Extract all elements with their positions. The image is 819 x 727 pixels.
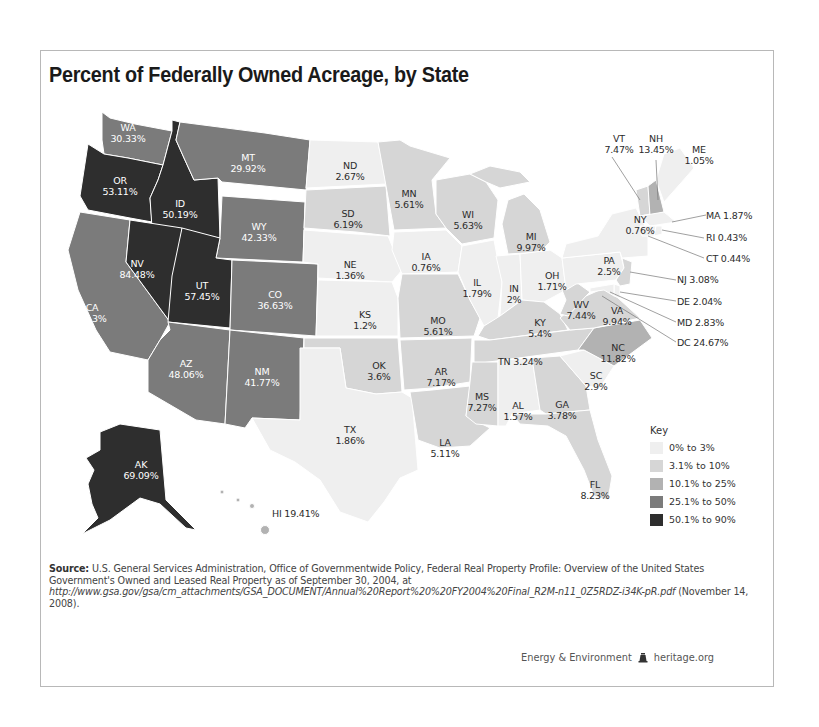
label-nv: NV84.48% (119, 258, 154, 280)
label-ri: RI 0.43% (706, 232, 747, 243)
legend-label: 0% to 3% (669, 442, 715, 453)
label-wa: WA30.33% (110, 122, 145, 144)
label-hi: HI 19.41% (272, 508, 319, 519)
label-oh: OH1.71% (537, 270, 566, 292)
label-dc: DC 24.67% (677, 337, 728, 348)
label-ca: CA45.3% (77, 302, 106, 324)
label-id: ID50.19% (162, 198, 197, 220)
label-wv: WV7.44% (566, 299, 595, 321)
legend-item: 10.1% to 25% (650, 477, 736, 490)
label-ar: AR7.17% (426, 366, 455, 388)
state-hi-1 (220, 490, 224, 494)
label-ms: MS7.27% (467, 391, 496, 413)
label-tn: TN 3.24% (498, 356, 543, 367)
leader-vt (612, 157, 640, 200)
legend-item: 50.1% to 90% (650, 513, 736, 526)
leader-ma (672, 215, 706, 222)
label-ny: NY0.76% (625, 214, 654, 236)
label-sd: SD6.19% (333, 208, 362, 230)
leader-ct (648, 236, 704, 258)
label-ct: CT 0.44% (706, 253, 750, 264)
label-va: VA9.94% (602, 305, 631, 327)
label-md: MD 2.83% (677, 317, 724, 328)
legend-swatch (650, 496, 663, 508)
label-nj: NJ 3.08% (677, 274, 719, 285)
footer-site[interactable]: heritage.org (654, 652, 714, 663)
label-ok: OK3.6% (367, 360, 390, 382)
label-or: OR53.11% (102, 175, 137, 197)
label-ky: KY5.4% (528, 317, 551, 339)
label-tx: TX1.86% (335, 424, 364, 446)
footer: Energy & Environment heritage.org (521, 652, 714, 663)
state-ri (654, 226, 662, 236)
legend-label: 10.1% to 25% (669, 478, 736, 489)
label-la: LA5.11% (430, 437, 459, 459)
legend-item: 3.1% to 10% (650, 459, 730, 472)
us-map (0, 0, 819, 727)
label-nd: ND2.67% (335, 160, 364, 182)
legend-item: 0% to 3% (650, 441, 715, 454)
label-nm: NM41.77% (244, 366, 279, 388)
source-note: Source: U.S. General Services Administra… (49, 563, 749, 609)
legend-title: Key (650, 425, 668, 436)
source-label: Source: (49, 563, 89, 574)
legend-item: 25.1% to 50% (650, 495, 736, 508)
label-mi: MI9.97% (516, 231, 545, 253)
label-ga: GA3.78% (547, 399, 576, 421)
label-co: CO36.63% (257, 289, 292, 311)
source-url[interactable]: http://www.gsa.gov/gsa/cm_attachments/GS… (49, 586, 675, 597)
label-ia: IA0.76% (411, 251, 440, 273)
state-hi-4 (261, 526, 270, 535)
source-text: U.S. General Services Administration, Of… (49, 563, 704, 586)
label-wy: WY42.33% (241, 221, 276, 243)
label-wi: WI5.63% (453, 209, 482, 231)
label-fl: FL8.23% (580, 479, 609, 501)
label-ne: NE1.36% (335, 259, 364, 281)
state-hi-3 (250, 504, 255, 509)
legend-swatch (650, 442, 663, 454)
state-hi-2 (236, 498, 240, 502)
footer-section: Energy & Environment (521, 652, 632, 663)
label-az: AZ48.06% (168, 358, 203, 380)
label-mt: MT29.92% (230, 152, 265, 174)
label-il: IL1.79% (462, 277, 491, 299)
leader-nj (630, 272, 676, 280)
label-mo: MO5.61% (423, 315, 452, 337)
label-al: AL1.57% (503, 400, 532, 422)
label-me: ME1.05% (684, 144, 713, 166)
label-ma: MA 1.87% (706, 210, 752, 221)
legend-label: 50.1% to 90% (669, 514, 736, 525)
label-sc: SC2.9% (584, 370, 607, 392)
leader-de (620, 292, 676, 301)
leader-ri (662, 230, 704, 238)
legend-label: 25.1% to 50% (669, 496, 736, 507)
label-in: IN2% (507, 283, 522, 305)
label-nh: NH13.45% (638, 133, 673, 155)
label-ak: AK69.09% (123, 459, 158, 481)
label-pa: PA2.5% (597, 255, 620, 277)
label-de: DE 2.04% (677, 296, 722, 307)
label-ut: UT57.45% (184, 280, 219, 302)
label-nc: NC11.82% (600, 342, 635, 364)
label-ks: KS1.2% (353, 309, 376, 331)
legend-swatch (650, 514, 663, 526)
label-vt: VT7.47% (604, 133, 633, 155)
legend-swatch (650, 478, 663, 490)
liberty-bell-icon (638, 653, 648, 663)
legend-swatch (650, 460, 663, 472)
legend-label: 3.1% to 10% (669, 460, 730, 471)
label-mn: MN5.61% (394, 188, 423, 210)
